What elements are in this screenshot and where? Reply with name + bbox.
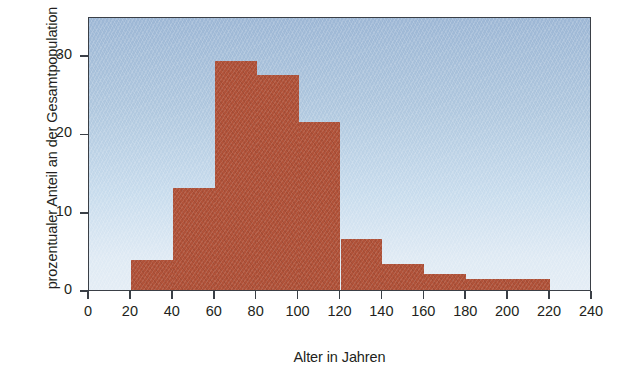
x-tick-label: 240 [567, 303, 615, 319]
x-tick [423, 291, 425, 299]
x-tick-label: 20 [106, 303, 154, 319]
histogram-bar [424, 274, 466, 290]
x-tick [381, 291, 383, 299]
x-tick [339, 291, 341, 299]
x-tick-label: 200 [483, 303, 531, 319]
x-axis-title: Alter in Jahren [88, 349, 591, 365]
histogram-bar [508, 279, 550, 290]
x-tick-label: 0 [64, 303, 112, 319]
histogram-bar [382, 264, 424, 290]
y-tick-label: 20 [30, 124, 72, 140]
x-tick [590, 291, 592, 299]
histogram-bar [341, 239, 383, 290]
histogram-bar [299, 122, 341, 290]
x-tick-label: 140 [357, 303, 405, 319]
x-tick-label: 160 [399, 303, 447, 319]
x-tick [297, 291, 299, 299]
x-tick-label: 40 [148, 303, 196, 319]
x-tick-label: 100 [274, 303, 322, 319]
x-tick [464, 291, 466, 299]
x-tick-label: 120 [316, 303, 364, 319]
y-tick-label: 30 [30, 46, 72, 62]
bar-series [89, 18, 590, 290]
x-tick [506, 291, 508, 299]
x-tick-label: 80 [232, 303, 280, 319]
x-tick-label: 220 [525, 303, 573, 319]
x-tick [171, 291, 173, 299]
x-tick [87, 291, 89, 299]
x-tick [213, 291, 215, 299]
histogram-figure: prozentualer Anteil an der Gesamtpopulat… [0, 0, 619, 386]
histogram-bar [215, 61, 257, 290]
y-tick [80, 212, 88, 214]
x-tick [255, 291, 257, 299]
histogram-bar [466, 279, 508, 290]
histogram-bar [131, 260, 173, 290]
x-tick [129, 291, 131, 299]
x-tick-label: 180 [441, 303, 489, 319]
y-tick-label: 0 [30, 281, 72, 297]
y-tick-label: 10 [30, 203, 72, 219]
plot-area [88, 17, 591, 291]
histogram-bar [257, 75, 299, 290]
y-tick [80, 55, 88, 57]
y-tick [80, 134, 88, 136]
x-tick [548, 291, 550, 299]
histogram-bar [173, 188, 215, 290]
y-tick [80, 290, 88, 292]
x-tick-label: 60 [190, 303, 238, 319]
